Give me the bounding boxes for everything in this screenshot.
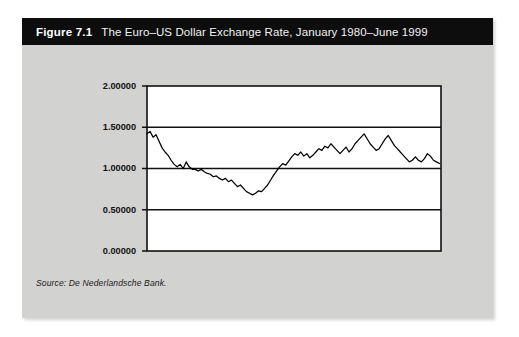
y-axis-tick-label: 1.50000	[103, 122, 136, 132]
figure-card: Figure 7.1 The Euro–US Dollar Exchange R…	[22, 18, 493, 318]
source-note: Source: De Nederlandsche Bank.	[36, 278, 167, 288]
y-axis-tick-label: 0.00000	[103, 246, 136, 256]
figure-title-bar: Figure 7.1 The Euro–US Dollar Exchange R…	[22, 18, 493, 45]
y-axis-tick-label: 0.50000	[103, 205, 136, 215]
y-axis-tick-labels: 0.000000.500001.000001.500002.00000	[103, 81, 136, 256]
figure-number-label: Figure 7.1	[36, 26, 92, 38]
figure-title-label: The Euro–US Dollar Exchange Rate, Januar…	[101, 26, 428, 38]
y-axis-tick-label: 2.00000	[103, 81, 136, 91]
y-axis-tick-label: 1.00000	[103, 163, 136, 173]
